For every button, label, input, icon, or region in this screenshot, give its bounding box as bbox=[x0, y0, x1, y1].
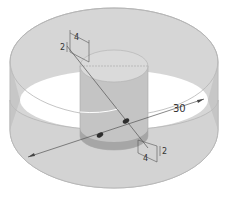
top-height-label: 2 bbox=[60, 43, 65, 52]
bottom-width-label: 4 bbox=[143, 154, 148, 163]
top-width-label: 4 bbox=[74, 33, 79, 42]
cylinder-diagram: 30 4 2 4 2 bbox=[0, 0, 227, 197]
bottom-height-label: 2 bbox=[162, 147, 167, 156]
diameter-label: 30 bbox=[173, 103, 186, 114]
